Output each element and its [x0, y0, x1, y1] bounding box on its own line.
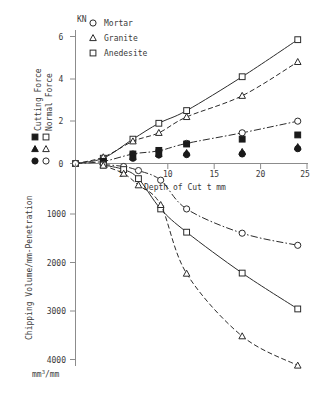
data-marker-square-open [239, 74, 245, 80]
cutting-force-key-label: Cutting Force [34, 68, 43, 131]
data-marker-circle-open [135, 167, 141, 173]
data-marker-square-open [90, 50, 96, 56]
data-marker-square-open [184, 229, 190, 235]
legend-item-label: Mortar [104, 19, 133, 28]
data-marker-triangle-open [183, 114, 190, 120]
data-marker-circle-open [184, 206, 190, 212]
data-marker-square-open [295, 37, 301, 43]
upper-x-ticks: 5 10 15 20 25 [119, 164, 310, 180]
force-key-markers [32, 134, 50, 164]
data-marker-circle-open [43, 158, 49, 164]
data-marker-triangle-open [183, 270, 190, 276]
upper-unit-label: KN [77, 15, 87, 24]
data-marker-triangle-open [294, 362, 301, 368]
lower-series-group [100, 161, 301, 368]
x-tick-label: 20 [256, 170, 266, 179]
data-marker-square-filled [239, 136, 245, 142]
data-marker-circle-filled [295, 146, 301, 152]
data-marker-square-filled [184, 141, 190, 147]
legend-item-mortar[interactable]: Mortar [90, 19, 133, 28]
data-marker-triangle-open [156, 129, 163, 135]
data-marker-square-open [136, 176, 142, 182]
series-mortar-chipping-volume [100, 161, 301, 248]
lower-y-tick-label: 3000 [47, 307, 66, 316]
data-marker-circle-filled [184, 152, 190, 158]
data-marker-triangle-filled [32, 146, 39, 152]
data-marker-triangle-open [239, 92, 246, 98]
x-tick-label: 25 [300, 170, 310, 179]
data-marker-triangle-open [135, 182, 142, 188]
data-marker-triangle-open [43, 146, 50, 152]
data-marker-triangle-open [90, 35, 97, 41]
lower-y-tick-label: 4000 [47, 356, 66, 365]
data-marker-circle-open [239, 230, 245, 236]
data-marker-square-open [295, 306, 301, 312]
data-marker-circle-open [295, 242, 301, 248]
upper-y-tick-label: 2 [59, 117, 64, 126]
material-legend: MortarGraniteAnedesite [90, 19, 148, 58]
series-line [103, 166, 297, 366]
legend-item-label: Granite [104, 34, 138, 43]
data-marker-square-filled [295, 132, 301, 138]
lower-y-tick-label: 2000 [47, 259, 66, 268]
upper-panel: KN 6 4 2 0 5 10 15 20 25 Depth of Cut t … [59, 15, 310, 192]
upper-y-tick-label: 4 [59, 75, 64, 84]
normal-force-key-label: Normal Force [45, 73, 54, 131]
legend-item-anedesite[interactable]: Anedesite [90, 49, 147, 58]
data-marker-circle-filled [156, 152, 162, 158]
x-tick-label: 15 [209, 170, 219, 179]
data-marker-triangle-open [157, 202, 164, 208]
data-marker-square-open [239, 270, 245, 276]
lower-y-ticks: 1000 2000 3000 4000 [47, 210, 76, 365]
data-marker-square-open [156, 120, 162, 126]
data-marker-square-filled [32, 134, 38, 140]
data-marker-circle-filled [130, 155, 136, 161]
chart-figure: KN 6 4 2 0 5 10 15 20 25 Depth of Cut t … [0, 0, 319, 403]
series-line [103, 165, 297, 246]
x-tick-label: 10 [163, 170, 173, 179]
data-marker-circle-filled [32, 158, 38, 164]
legend-item-label: Anedesite [104, 49, 148, 58]
data-marker-circle-open [239, 130, 245, 136]
lower-y-axis-title: Chipping Volume/mm-Penetration [25, 195, 34, 340]
upper-y-tick-label: 6 [59, 33, 64, 42]
data-marker-circle-open [90, 20, 96, 26]
data-marker-circle-filled [239, 151, 245, 157]
series-granite-chipping-volume [100, 162, 301, 368]
upper-y-ticks: 6 4 2 0 [59, 33, 76, 169]
legend-item-granite[interactable]: Granite [90, 34, 138, 43]
lower-unit-label: mm3/mm [32, 369, 60, 380]
data-marker-triangle-open [294, 59, 301, 65]
lower-panel: 1000 2000 3000 4000 Chipping Volume/mm-P… [25, 161, 301, 379]
data-marker-square-open [43, 134, 49, 140]
upper-y-tick-label: 0 [59, 160, 64, 169]
lower-y-tick-label: 1000 [47, 210, 66, 219]
data-marker-circle-open [158, 177, 164, 183]
force-key: Cutting Force Normal Force [32, 68, 54, 164]
x-axis-title: Depth of Cut t mm [144, 183, 226, 192]
data-marker-circle-open [295, 118, 301, 124]
